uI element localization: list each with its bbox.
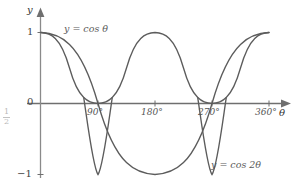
margin-fraction-denominator: 2 bbox=[3, 118, 10, 126]
y-tick-label-0: 0 bbox=[27, 97, 33, 107]
x-tick-label-90: 90° bbox=[87, 108, 103, 117]
curve-label-cos-theta: y = cos θ bbox=[64, 24, 108, 34]
margin-fraction-numerator: 1 bbox=[3, 108, 10, 116]
x-tick-label-180: 180° bbox=[141, 108, 163, 117]
margin-fraction-one-half: 1 2 bbox=[3, 108, 10, 126]
y-tick-label-minus-1: −1 bbox=[17, 169, 32, 179]
x-tick-label-270: 270° bbox=[198, 108, 220, 117]
x-axis-label: θ bbox=[279, 108, 285, 118]
curve-cos-2theta bbox=[41, 33, 269, 104]
curve-label-cos-2theta: y = cos 2θ bbox=[211, 160, 261, 170]
x-tick-label-360: 360° bbox=[255, 108, 277, 117]
y-axis-label: y bbox=[27, 5, 33, 15]
y-tick-label-1: 1 bbox=[27, 27, 33, 37]
